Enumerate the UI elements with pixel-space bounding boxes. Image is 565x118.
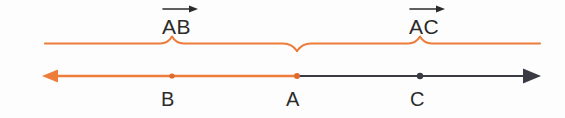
- brace-group: [45, 37, 540, 52]
- vector-ab-label: AB: [162, 16, 191, 37]
- brace-ac: [297, 37, 540, 52]
- brace-ab: [45, 37, 297, 52]
- point-b-dot: [169, 73, 174, 78]
- vector-ac-label: AC: [409, 16, 439, 37]
- point-b-label: B: [161, 89, 174, 109]
- point-c-label: C: [410, 89, 424, 109]
- vector-arrow-ab-icon: [163, 6, 198, 13]
- left-arrowhead-icon: [42, 70, 58, 83]
- diagram-canvas: [0, 0, 565, 118]
- vector-number-line-figure: AB AC B A C: [0, 0, 565, 118]
- vector-arrow-ac-icon: [410, 6, 445, 13]
- right-arrowhead-icon: [523, 69, 541, 84]
- point-a-label: A: [286, 89, 299, 109]
- number-line-group: [42, 69, 541, 84]
- point-a-dot: [294, 73, 300, 79]
- point-c-dot: [417, 73, 423, 79]
